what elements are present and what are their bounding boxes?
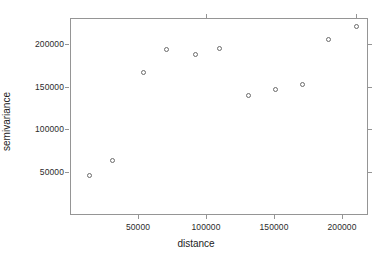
x-axis-tick-label: 100000	[192, 222, 221, 232]
scatter-plot-figure: 5000010000015000020000050000100000150000…	[0, 0, 392, 259]
x-axis-tick-label: 50000	[126, 222, 150, 232]
y-axis-tick	[65, 44, 69, 45]
y-axis-title: semivariance	[1, 72, 12, 172]
data-point	[246, 93, 251, 98]
y-axis-tick-right	[368, 129, 372, 130]
x-axis-tick	[342, 215, 343, 219]
x-axis-tick	[274, 215, 275, 219]
y-axis-line	[70, 18, 71, 215]
y-axis-tick	[65, 87, 69, 88]
panel-border-right	[367, 18, 368, 214]
y-axis-tick-right	[368, 172, 372, 173]
x-axis-tick-label: 200000	[328, 222, 357, 232]
x-axis-tick-top	[356, 14, 357, 18]
y-axis-tick-right	[368, 44, 372, 45]
y-axis-tick-right	[368, 87, 372, 88]
x-axis-tick-label: 150000	[260, 222, 289, 232]
data-point	[87, 173, 92, 178]
data-point	[193, 52, 198, 57]
panel-border-top	[70, 18, 368, 19]
y-axis-tick	[65, 129, 69, 130]
y-axis-tick-label: 200000	[35, 39, 64, 49]
x-axis-line	[70, 214, 368, 215]
x-axis-tick-top	[206, 14, 207, 18]
x-axis-title: distance	[0, 238, 392, 249]
y-axis-tick-label: 100000	[35, 124, 64, 134]
data-point	[217, 46, 222, 51]
y-axis-tick-label: 50000	[40, 167, 64, 177]
x-axis-tick	[206, 215, 207, 219]
y-axis-tick	[65, 172, 69, 173]
data-point	[141, 70, 146, 75]
y-axis-tick-label: 150000	[35, 82, 64, 92]
data-point	[273, 87, 278, 92]
x-axis-tick	[138, 215, 139, 219]
